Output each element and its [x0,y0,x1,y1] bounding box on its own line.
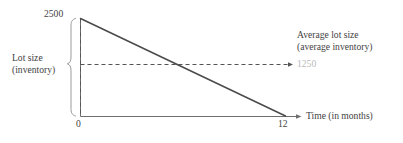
x-axis-title: Time (in months) [306,110,373,122]
average-annotation-line-1: Average lot size [297,29,372,41]
inventory-sawtooth-chart: 2500 Lot size (inventory) 0 12 Time (in … [0,0,403,143]
inventory-depletion-line [81,19,286,117]
average-lot-size-annotation: Average lot size (average inventory) [297,29,372,52]
lot-size-brace [67,19,75,117]
x-axis-tick-twelve-label: 12 [278,118,288,130]
y-axis-max-tick-label: 2500 [44,8,63,20]
y-axis-title: Lot size (inventory) [12,52,55,75]
y-axis-title-line-2: (inventory) [12,64,55,76]
average-annotation-line-2: (average inventory) [297,41,372,53]
y-axis-title-line-1: Lot size [12,52,55,64]
average-inventory-value-label: 1250 [297,58,316,70]
x-axis-tick-zero-label: 0 [76,118,81,130]
